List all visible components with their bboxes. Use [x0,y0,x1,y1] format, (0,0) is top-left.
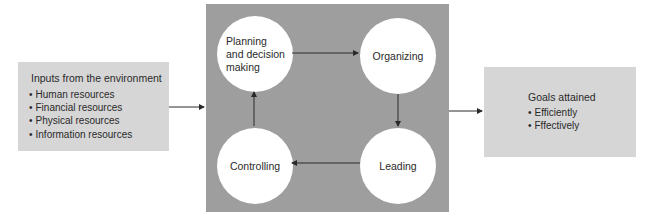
flow-arrows [0,0,650,223]
